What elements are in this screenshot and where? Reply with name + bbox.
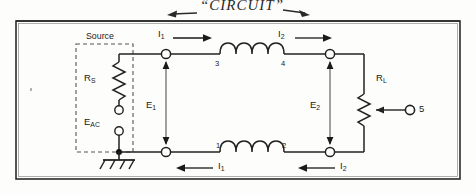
annotation-right-arrowhead bbox=[299, 10, 310, 17]
handwritten-annotation: “CIRCUIT” bbox=[200, 0, 284, 14]
terminal-bottom-right bbox=[325, 147, 334, 156]
eac-label: EAC bbox=[84, 117, 100, 127]
i1-bottom-label: I1 bbox=[218, 161, 224, 171]
eac-terminal-upper bbox=[115, 106, 123, 114]
e1-arrowhead-down bbox=[163, 137, 170, 145]
rs-label-sub: S bbox=[91, 77, 96, 84]
terminal-top-left bbox=[161, 49, 170, 58]
resistor-zigzag-icon bbox=[113, 62, 125, 100]
i2-top-label-sub: 2 bbox=[281, 33, 285, 40]
terminal-1-label: 1 bbox=[216, 142, 220, 150]
e2-label-sub: 2 bbox=[316, 104, 320, 111]
ground-hatch-1 bbox=[100, 160, 105, 169]
i2-top-label: I2 bbox=[278, 29, 284, 39]
ground-hatch-3 bbox=[120, 160, 125, 169]
e2-arrowhead-up bbox=[327, 61, 334, 69]
inductor-coil-icon-top bbox=[220, 43, 284, 54]
wiper-arrowhead bbox=[376, 107, 384, 114]
terminal-4-label: 4 bbox=[281, 60, 285, 68]
eac-label-sub: AC bbox=[90, 121, 100, 128]
rs-label-main: R bbox=[84, 72, 91, 83]
rl-label: RL bbox=[376, 73, 387, 83]
i1-top-label: I1 bbox=[158, 29, 164, 39]
terminal-3-label: 3 bbox=[215, 60, 219, 68]
ground-hatch-4 bbox=[129, 160, 134, 169]
i2-bottom-label-sub: 2 bbox=[343, 165, 347, 172]
i1-top-label-sub: 1 bbox=[161, 33, 165, 40]
source-title: Source bbox=[86, 32, 114, 41]
scan-artifact-speck bbox=[30, 88, 32, 91]
terminal-bottom-left bbox=[161, 147, 170, 156]
e1-label: E1 bbox=[146, 100, 156, 110]
rs-label: RS bbox=[84, 73, 95, 83]
rl-label-sub: L bbox=[383, 77, 387, 84]
figure-canvas: “CIRCUIT” Source RS EAC I1 I2 I1 I2 E1 E… bbox=[0, 0, 476, 195]
i2-bottom-arrowhead bbox=[298, 164, 307, 171]
i2-bottom-label: I2 bbox=[340, 161, 346, 171]
i2-top-arrowhead bbox=[323, 34, 332, 41]
e1-label-sub: 1 bbox=[152, 104, 156, 111]
terminal-top-right bbox=[325, 49, 334, 58]
rl-label-main: R bbox=[376, 72, 383, 83]
terminal-5-label: 5 bbox=[419, 104, 424, 114]
terminal-5-circle[interactable] bbox=[405, 105, 414, 114]
inductor-coil-icon-bottom bbox=[220, 141, 284, 152]
i1-bottom-label-sub: 1 bbox=[221, 165, 225, 172]
e2-arrowhead-down bbox=[327, 137, 334, 145]
ground-hatch-2 bbox=[110, 160, 115, 169]
annotation-left-arrowhead bbox=[167, 11, 177, 18]
eac-terminal-lower bbox=[115, 127, 123, 135]
source-dashed-box bbox=[76, 44, 133, 152]
e1-arrowhead-up bbox=[163, 61, 170, 69]
circuit-schematic bbox=[0, 0, 476, 195]
potentiometer-icon bbox=[358, 94, 370, 126]
terminal-2-label: 2 bbox=[282, 142, 286, 150]
i1-bottom-arrowhead bbox=[176, 164, 185, 171]
i1-top-arrowhead bbox=[203, 34, 212, 41]
e2-label: E2 bbox=[310, 100, 320, 110]
